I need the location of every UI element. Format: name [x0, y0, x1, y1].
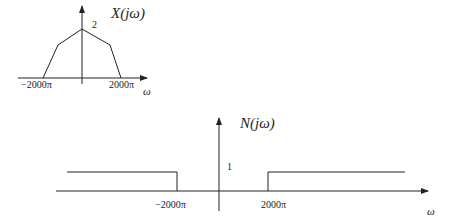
bottom-tick-pos: 2000π	[261, 199, 286, 210]
noise-spectrum-left	[67, 172, 177, 191]
top-x-label: ω	[143, 85, 151, 97]
figure: X(jω) 2 −2000π 2000π ω N(jω) 1 −2000π 20…	[0, 0, 452, 220]
noise-spectrum-right	[268, 172, 405, 191]
top-tick-neg: −2000π	[21, 79, 52, 90]
bottom-tick-neg: −2000π	[155, 199, 186, 210]
bottom-plot-title: N(jω)	[239, 115, 275, 132]
top-plot-title: X(jω)	[110, 5, 145, 22]
top-peak-label: 2	[92, 19, 97, 30]
spectrum-diagram: X(jω) 2 −2000π 2000π ω N(jω) 1 −2000π 20…	[0, 0, 452, 220]
top-plot: X(jω) 2 −2000π 2000π ω	[18, 5, 151, 97]
bottom-x-label: ω	[427, 205, 435, 217]
bottom-plot: N(jω) 1 −2000π 2000π ω	[56, 115, 435, 217]
top-tick-pos: 2000π	[109, 79, 134, 90]
bottom-level-label: 1	[227, 161, 232, 172]
